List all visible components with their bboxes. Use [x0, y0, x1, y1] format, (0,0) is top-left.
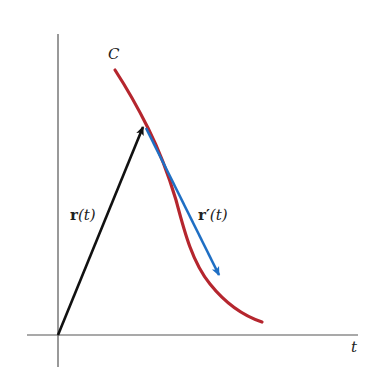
horizontal-axis-label: t: [351, 340, 357, 355]
position-vector-symbol: r: [70, 206, 78, 224]
position-vector-arg: (t): [78, 206, 96, 224]
tangent-vector-label: r′(t): [198, 208, 228, 223]
diagram-svg: [0, 0, 379, 384]
tangent-vector-symbol: r′: [198, 206, 210, 224]
curve-c: [115, 70, 262, 322]
tangent-vector-arg: (t): [210, 206, 228, 224]
tangent-vector-arrow: [146, 128, 219, 275]
position-vector-label: r(t): [70, 208, 96, 223]
curve-label: C: [108, 47, 119, 62]
position-vector-arrow: [58, 127, 143, 335]
diagram-canvas: C r(t) r′(t) t: [0, 0, 379, 384]
